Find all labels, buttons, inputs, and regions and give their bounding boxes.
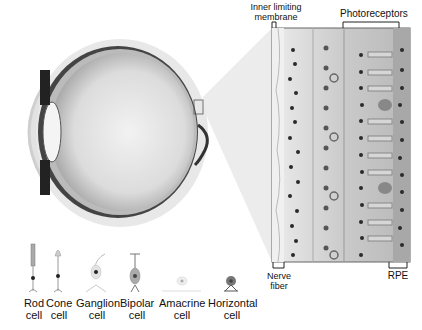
amacrine-line1: Amacrine (159, 297, 205, 309)
photoreceptor-bracket (343, 22, 399, 28)
bipolar-line1: Bipolar (120, 297, 154, 309)
amacrine-cell-icon (162, 277, 201, 291)
ganglion-line1: Ganglion (76, 297, 118, 309)
cone-line2: cell (46, 309, 72, 321)
horizontal-cell-label: Horizontal cell (208, 297, 256, 321)
horizontal-line2: cell (208, 309, 256, 321)
horizontal-cell-icon (224, 276, 238, 291)
magnification-wedge (203, 28, 272, 262)
retina-cross-section (272, 28, 410, 262)
eye-retina-diagram (0, 0, 422, 330)
nerve-fiber-line1: Nerve (264, 271, 294, 281)
nerve-fiber-label: Nerve fiber (264, 271, 294, 291)
cone-line1: Cone (46, 297, 72, 309)
bipolar-cell-icon (130, 254, 140, 292)
inner-limiting-membrane-label: Inner limiting membrane (243, 2, 309, 22)
amacrine-line2: cell (159, 309, 205, 321)
amacrine-cell-label: Amacrine cell (159, 297, 205, 321)
cone-cell-label: Cone cell (46, 297, 72, 321)
photoreceptors-label: Photoreceptors (340, 9, 404, 19)
nerve-fiber-line2: fiber (264, 281, 294, 291)
nerve-fiber-bracket (273, 262, 284, 268)
rod-cell-label: Rod cell (22, 297, 46, 321)
rod-line2: cell (22, 309, 46, 321)
bipolar-line2: cell (120, 309, 154, 321)
ilm-label-line2: membrane (243, 12, 309, 22)
eyeball (28, 39, 208, 227)
ganglion-cell-label: Ganglion cell (76, 297, 118, 321)
bipolar-cell-label: Bipolar cell (120, 297, 154, 321)
ilm-bracket (272, 22, 276, 28)
ganglion-line2: cell (76, 309, 118, 321)
rod-line1: Rod (22, 297, 46, 309)
cone-cell-icon (54, 250, 62, 292)
ganglion-cell-icon (86, 254, 106, 292)
cell-icons (29, 244, 238, 292)
ilm-label-line1: Inner limiting (243, 2, 309, 12)
rpe-bracket (389, 262, 407, 268)
horizontal-line1: Horizontal (208, 297, 256, 309)
rpe-label: RPE (386, 271, 410, 281)
rod-cell-icon (29, 244, 37, 292)
